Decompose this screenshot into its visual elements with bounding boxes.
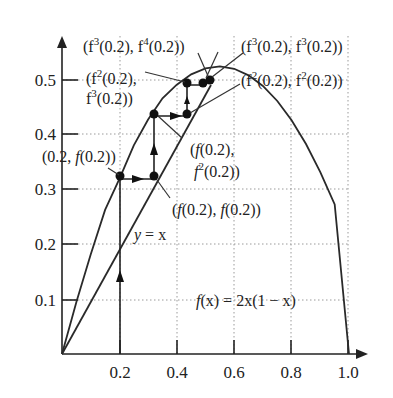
x-tick-label: 0.2 xyxy=(109,363,130,382)
y-tick-label: 0.1 xyxy=(35,291,56,310)
arrow-up-icon xyxy=(184,96,190,104)
label-f-f: (f(0.2), f(0.2)) xyxy=(172,201,261,219)
label-f2-f3-line2: f3(0.2)) xyxy=(86,87,133,108)
label-f-f2-line1: (f(0.2), xyxy=(190,141,234,159)
y-axis-arrow-icon xyxy=(57,36,67,48)
arrow-right-icon xyxy=(170,112,182,120)
y-tick-label: 0.5 xyxy=(35,71,56,90)
label-02-f02: (0.2, f(0.2)) xyxy=(42,148,116,166)
x-tick-label: 0.4 xyxy=(166,363,188,382)
label-identity-line: y = x xyxy=(132,226,166,244)
arrow-right-icon xyxy=(132,175,144,183)
label-function: f(x) = 2x(1 − x) xyxy=(196,292,296,310)
identity-line xyxy=(62,85,211,354)
x-tick-label: 1.0 xyxy=(337,363,358,382)
arrow-up-icon xyxy=(116,270,124,282)
y-tick-label: 0.2 xyxy=(35,235,56,254)
y-tick-label: 0.4 xyxy=(35,125,57,144)
label-f3-f4: (f3(0.2), f4(0.2)) xyxy=(83,35,185,56)
label-f2-f3-line1: (f2(0.2), xyxy=(86,67,137,88)
label-f2-f2: (f2(0.2), f2(0.2)) xyxy=(241,69,343,90)
arrow-up-icon xyxy=(150,143,158,155)
x-tick-labels: 0.2 0.4 0.6 0.8 1.0 xyxy=(109,363,358,382)
y-tick-label: 0.3 xyxy=(35,180,56,199)
x-tick-label: 0.8 xyxy=(280,363,301,382)
x-tick-label: 0.6 xyxy=(223,363,244,382)
label-f-f2-line2: f2(0.2)) xyxy=(194,160,240,181)
label-f3-f3: (f3(0.2), f3(0.2)) xyxy=(241,35,343,56)
x-axis-arrow-icon xyxy=(356,349,368,359)
cobweb-chart: 0.2 0.4 0.6 0.8 1.0 0.1 0.2 0.3 0.4 0.5 xyxy=(0,0,393,398)
y-tick-labels: 0.1 0.2 0.3 0.4 0.5 xyxy=(35,71,57,310)
